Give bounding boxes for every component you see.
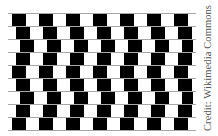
dark-tile (70, 79, 84, 91)
dark-tile (47, 40, 61, 52)
dark-tile (124, 53, 138, 65)
dark-tile (66, 14, 80, 26)
dark-tile (20, 40, 34, 52)
dark-tile (151, 27, 165, 39)
dark-tile (147, 14, 161, 26)
dark-tile (174, 118, 188, 130)
dark-tile (43, 53, 57, 65)
dark-tile (174, 14, 188, 26)
dark-tile (120, 14, 134, 26)
dark-tile (97, 105, 111, 117)
dark-tile (43, 79, 57, 91)
dark-tile (47, 92, 61, 104)
dark-tile (93, 66, 107, 78)
credit-caption: Credit: Wikimedia Commons (202, 5, 213, 131)
dark-tile (93, 118, 107, 130)
dark-tile (182, 40, 193, 52)
dark-tile (101, 40, 115, 52)
dark-tile (124, 79, 138, 91)
dark-tile (124, 105, 138, 117)
dark-tile (178, 53, 192, 65)
dark-tile (16, 79, 30, 91)
dark-tile (20, 92, 34, 104)
dark-tile (151, 105, 165, 117)
dark-tile (147, 66, 161, 78)
dark-tile (97, 53, 111, 65)
dark-tile (178, 27, 192, 39)
dark-tile (43, 27, 57, 39)
dark-tile (66, 66, 80, 78)
dark-tile (74, 92, 88, 104)
dark-tile (43, 105, 57, 117)
dark-tile (16, 53, 30, 65)
dark-tile (12, 118, 26, 130)
dark-tile (12, 66, 26, 78)
dark-tile (39, 14, 53, 26)
dark-tile (93, 14, 107, 26)
dark-tile (124, 27, 138, 39)
dark-tile (151, 79, 165, 91)
dark-tile (101, 92, 115, 104)
dark-tile (12, 14, 26, 26)
mortar-line (8, 130, 196, 131)
dark-tile (174, 66, 188, 78)
dark-tile (128, 40, 142, 52)
dark-tile (182, 92, 193, 104)
dark-tile (39, 118, 53, 130)
dark-tile (155, 92, 169, 104)
dark-tile (178, 105, 192, 117)
dark-tile (151, 53, 165, 65)
dark-tile (97, 27, 111, 39)
dark-tile (39, 66, 53, 78)
dark-tile (16, 27, 30, 39)
cafe-wall-illusion (0, 0, 218, 136)
dark-tile (178, 79, 192, 91)
dark-tile (120, 118, 134, 130)
dark-tile (70, 53, 84, 65)
dark-tile (70, 105, 84, 117)
dark-tile (155, 40, 169, 52)
dark-tile (70, 27, 84, 39)
dark-tile (16, 105, 30, 117)
dark-tile (120, 66, 134, 78)
dark-tile (66, 118, 80, 130)
dark-tile (147, 118, 161, 130)
dark-tile (97, 79, 111, 91)
dark-tile (128, 92, 142, 104)
dark-tile (74, 40, 88, 52)
